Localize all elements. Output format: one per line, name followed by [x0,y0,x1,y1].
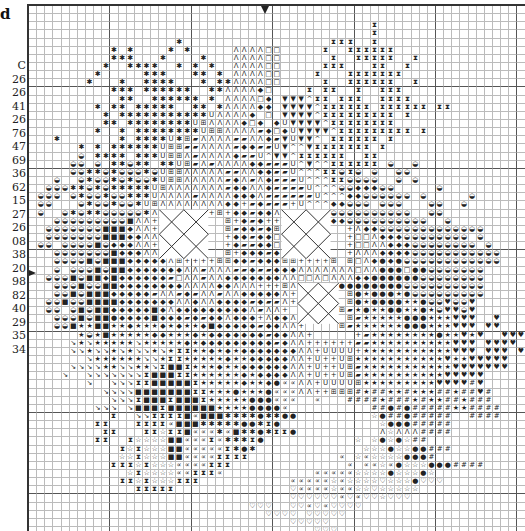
stitch-cell: ⧗ [346,79,354,87]
key-number: 26 [12,73,26,86]
empty-cell [233,470,241,478]
stitch-cell: ⧗ [355,79,363,87]
empty-cell [45,429,53,437]
stitch-cell: ◒ [452,242,460,250]
stitch-cell: ⊞ [167,153,175,161]
stitch-cell: ^ [314,161,322,169]
empty-cell [477,340,485,348]
empty-cell [493,486,501,494]
empty-cell [509,323,517,331]
empty-cell [485,96,493,104]
empty-cell [298,527,306,531]
stitch-cell: ✱ [135,161,143,169]
empty-cell [501,63,509,71]
empty-cell [45,22,53,30]
empty-cell [273,462,281,470]
empty-cell [509,389,517,397]
empty-cell [493,454,501,462]
stitch-cell: ∝ [200,462,208,470]
stitch-cell: ★ [110,332,118,340]
stitch-cell: ⊞ [346,356,354,364]
empty-cell [110,39,118,47]
empty-cell [493,136,501,144]
stitch-cell: ∝ [338,454,346,462]
stitch-cell: ⧗ [379,112,387,120]
stitch-cell: ✱ [192,71,200,79]
stitch-cell: ▰ [167,275,175,283]
stitch-cell: ▰ [265,332,273,340]
stitch-cell: ↘ [110,380,118,388]
empty-cell [485,218,493,226]
stitch-cell: Λ [208,120,216,128]
stitch-cell: ^ [322,177,330,185]
empty-cell [94,112,102,120]
stitch-cell: ✱ [110,177,118,185]
empty-cell [143,39,151,47]
stitch-cell: ▰ [298,193,306,201]
empty-cell [102,446,110,454]
empty-cell [469,153,477,161]
stitch-cell: ◒ [420,226,428,234]
stitch-cell: ◒ [53,307,61,315]
empty-cell [428,96,436,104]
stitch-cell: Λ [290,323,298,331]
stitch-cell: ◒ [420,283,428,291]
empty-cell [322,437,330,445]
empty-cell [298,39,306,47]
stitch-cell: ↘ [127,380,135,388]
stitch-cell: ☆ [403,446,411,454]
stitch-cell: Λ [200,185,208,193]
empty-cell [420,185,428,193]
empty-cell [70,201,78,209]
empty-cell [501,299,509,307]
empty-cell [460,71,468,79]
empty-cell [444,494,452,502]
stitch-cell: Λ [184,153,192,161]
stitch-cell: Λ [241,112,249,120]
stitch-cell: ♡ [322,527,330,531]
stitch-cell: Λ [184,299,192,307]
stitch-cell: Λ [298,348,306,356]
empty-cell [102,527,110,531]
stitch-cell: ^ [314,169,322,177]
stitch-cell: ● [412,275,420,283]
empty-cell [78,63,86,71]
empty-cell [216,96,224,104]
empty-cell [192,527,200,531]
empty-cell [249,478,257,486]
empty-cell [412,169,420,177]
stitch-cell: ★ [200,372,208,380]
empty-cell [257,527,265,531]
stitch-cell: ◆ [355,193,363,201]
empty-cell [94,14,102,22]
stitch-cell: ■ [143,389,151,397]
stitch-cell: ★ [200,356,208,364]
empty-cell [428,104,436,112]
stitch-cell: ■ [184,421,192,429]
stitch-cell: ^ [306,169,314,177]
stitch-cell: ◒ [420,258,428,266]
empty-cell [501,258,509,266]
empty-cell [477,511,485,519]
stitch-cell: ◒ [403,258,411,266]
empty-cell [29,291,37,299]
stitch-cell: ● [395,437,403,445]
empty-cell [45,356,53,364]
stitch-cell: ↘ [119,348,127,356]
empty-cell [110,71,118,79]
stitch-cell: ◆ [257,104,265,112]
stitch-grid: ⧗⧗✱⧗⧗⧗⧗✱✱✱✱ΛΛΛΛ□□⧗⧗⧗⧗⧗⧗⧗✱✱✱✱✱ΛΛΛΛ□□⧗⧗⧗⧗⧗… [29,6,525,531]
empty-cell [298,55,306,63]
stitch-cell: ◆ [273,323,281,331]
empty-cell [29,63,37,71]
stitch-cell: ◒ [444,283,452,291]
stitch-cell: ◆ [135,315,143,323]
stitch-cell: ★ [233,364,241,372]
empty-cell [45,291,53,299]
empty-cell [363,63,371,71]
empty-cell [322,307,330,315]
stitch-cell: ☆ [387,437,395,445]
stitch-cell: ♥ [477,389,485,397]
empty-cell [29,79,37,87]
empty-cell [78,128,86,136]
